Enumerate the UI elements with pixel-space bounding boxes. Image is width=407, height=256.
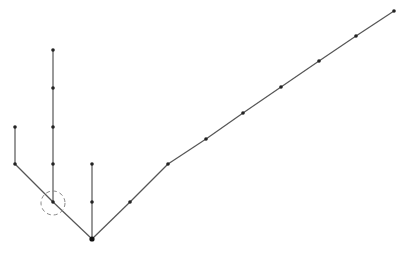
tree-edge: [130, 164, 168, 202]
tree-node[interactable]: [241, 111, 245, 115]
tree-edge: [206, 113, 243, 139]
tree-nodes: [13, 9, 396, 241]
tree-node[interactable]: [51, 86, 55, 90]
tree-edge: [168, 139, 206, 164]
tree-node[interactable]: [204, 137, 208, 141]
tree-node[interactable]: [13, 125, 17, 129]
tree-node[interactable]: [51, 162, 55, 166]
tree-node[interactable]: [90, 162, 94, 166]
tree-edges: [15, 11, 394, 239]
tree-edge: [356, 11, 394, 36]
tree-edge: [53, 202, 92, 239]
tree-edge: [319, 36, 356, 61]
tree-edge: [281, 61, 319, 87]
tree-node[interactable]: [279, 85, 283, 89]
tree-root-node[interactable]: [89, 236, 94, 241]
tree-node[interactable]: [51, 125, 55, 129]
tree-node[interactable]: [317, 59, 321, 63]
tree-edge: [15, 164, 53, 202]
tree-edge: [243, 87, 281, 113]
tree-node[interactable]: [354, 34, 358, 38]
tree-node[interactable]: [128, 200, 132, 204]
tree-node[interactable]: [51, 48, 55, 52]
tree-node[interactable]: [51, 200, 55, 204]
tree-edge: [92, 202, 130, 239]
tree-node[interactable]: [392, 9, 396, 13]
tree-node[interactable]: [166, 162, 170, 166]
tree-node[interactable]: [90, 200, 94, 204]
tree-diagram: [0, 0, 407, 256]
tree-node[interactable]: [13, 162, 17, 166]
